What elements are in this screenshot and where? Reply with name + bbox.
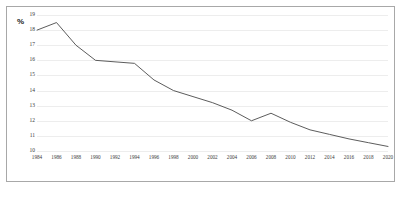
y-axis-tick: 10 [30,148,36,154]
y-axis-tick: 12 [30,118,36,124]
x-axis-tick: 1996 [149,155,159,160]
gridline [37,151,388,152]
x-axis-tick: 2014 [324,155,334,160]
y-axis-tick: 11 [30,133,35,139]
y-axis-tick: 16 [30,58,36,64]
x-axis-tick: 2012 [305,155,315,160]
x-axis-tick: 1990 [90,155,100,160]
x-axis-tick: 2006 [246,155,256,160]
plot-area [37,15,388,151]
x-axis-tick: 2016 [344,155,354,160]
x-axis-tick: 1984 [32,155,42,160]
x-axis-tick: 1992 [110,155,120,160]
x-axis-tick: 1988 [71,155,81,160]
y-axis-tick: 14 [30,88,36,94]
line-series [37,15,388,151]
x-axis-tick: 1986 [51,155,61,160]
x-axis-tick-labels: 1984198619881990199219941996199820002002… [37,155,388,169]
y-axis-tick: 19 [30,12,36,18]
y-axis-tick-labels: 19181716151413121110 [7,15,37,151]
y-axis-tick: 13 [30,103,36,109]
chart-figure: % 19181716151413121110 19841986198819901… [6,6,395,182]
x-axis-tick: 1994 [129,155,139,160]
x-axis-tick: 2000 [188,155,198,160]
x-axis-tick: 2004 [227,155,237,160]
y-axis-tick: 18 [30,27,36,33]
x-axis-tick: 2010 [285,155,295,160]
y-axis-tick: 17 [30,42,36,48]
x-axis-tick: 2018 [363,155,373,160]
x-axis-tick: 2020 [383,155,393,160]
x-axis-tick: 2002 [207,155,217,160]
series-polyline [37,23,388,147]
x-axis-tick: 1998 [168,155,178,160]
y-axis-tick: 15 [30,73,36,79]
x-axis-tick: 2008 [266,155,276,160]
